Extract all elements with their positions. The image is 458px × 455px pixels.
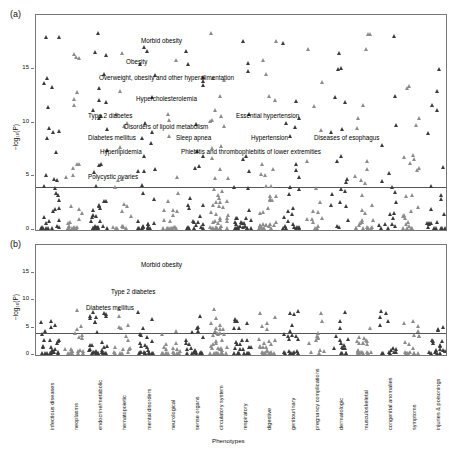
data-point <box>196 329 200 333</box>
data-point <box>81 349 85 353</box>
data-point <box>126 338 130 342</box>
data-point <box>57 129 61 133</box>
x-category-label: mental disorders <box>146 389 152 430</box>
data-point <box>146 348 150 352</box>
data-point <box>361 103 365 107</box>
data-point <box>394 347 398 351</box>
data-point <box>97 163 101 167</box>
data-point <box>357 351 361 355</box>
data-point <box>160 332 164 336</box>
data-point <box>439 197 443 201</box>
data-point <box>70 349 74 353</box>
data-point <box>249 218 253 222</box>
data-point <box>366 351 370 355</box>
data-point <box>225 199 229 203</box>
data-point <box>55 178 59 182</box>
data-point <box>394 200 398 204</box>
data-point <box>442 212 446 216</box>
data-point <box>177 351 181 355</box>
data-point <box>140 183 144 187</box>
point-annotation: Morbid obesity <box>141 261 182 268</box>
data-point <box>57 338 61 342</box>
data-point <box>88 343 92 347</box>
data-point <box>294 162 298 166</box>
manhattan-plot-panel-b: Morbid obesityType 2 diabetesDiabetes me… <box>35 244 447 356</box>
data-point <box>443 226 447 230</box>
data-point <box>191 219 195 223</box>
data-point <box>268 222 272 226</box>
data-point <box>411 153 415 157</box>
data-point <box>235 342 239 346</box>
data-point <box>237 326 241 330</box>
data-point <box>69 204 73 208</box>
data-point <box>409 209 413 213</box>
data-point <box>97 203 101 207</box>
data-point <box>366 32 370 36</box>
data-point <box>441 165 445 169</box>
data-point <box>96 31 100 35</box>
data-point <box>246 69 250 73</box>
data-point <box>316 335 320 339</box>
data-point <box>39 320 43 324</box>
data-point <box>430 338 434 342</box>
data-point <box>218 216 222 220</box>
data-point <box>185 351 189 355</box>
data-point <box>54 191 58 195</box>
data-point <box>288 185 292 189</box>
data-point <box>136 310 140 314</box>
y-tick-label: 10 <box>15 118 29 124</box>
data-point <box>209 210 213 214</box>
data-point <box>245 351 249 355</box>
data-point <box>355 126 359 130</box>
data-point <box>435 220 439 224</box>
data-point <box>269 342 273 346</box>
data-point <box>53 323 57 327</box>
data-point <box>150 317 154 321</box>
data-point <box>246 186 250 190</box>
y-tick-label: 15 <box>15 64 29 70</box>
data-point <box>417 166 421 170</box>
data-point <box>437 67 441 71</box>
data-point <box>141 191 145 195</box>
data-point <box>166 112 170 116</box>
data-point <box>309 350 313 354</box>
data-point <box>93 320 97 324</box>
data-point <box>199 225 203 229</box>
figure-root: (a) (b) −log₁₀(P) −log₁₀(P) Morbid obesi… <box>0 0 458 455</box>
data-point <box>258 211 262 215</box>
data-point <box>333 95 337 99</box>
data-point <box>143 343 147 347</box>
data-point <box>176 191 180 195</box>
data-point <box>201 203 205 207</box>
data-point <box>138 341 142 345</box>
data-point <box>338 319 342 323</box>
data-point <box>96 226 100 230</box>
data-point <box>120 209 124 213</box>
point-annotation: Sleep apnea <box>176 134 211 141</box>
data-point <box>74 226 78 230</box>
data-point <box>77 56 81 60</box>
data-point <box>162 218 166 222</box>
data-point <box>268 198 272 202</box>
x-category-label: neurological <box>170 400 176 430</box>
data-point <box>45 136 49 140</box>
y-tick-label: 15 <box>15 268 29 274</box>
data-point <box>45 351 49 355</box>
data-point <box>52 177 56 181</box>
data-point <box>240 221 244 225</box>
data-point <box>215 351 219 355</box>
data-point <box>75 90 79 94</box>
data-point <box>282 350 286 354</box>
data-point <box>104 53 108 57</box>
data-point <box>218 167 222 171</box>
data-point <box>238 347 242 351</box>
data-point <box>224 351 228 355</box>
data-point <box>320 319 324 323</box>
data-point <box>233 319 237 323</box>
data-point <box>184 49 188 53</box>
data-point <box>294 99 298 103</box>
data-point <box>141 225 145 229</box>
data-point <box>44 173 48 177</box>
data-point <box>411 319 415 323</box>
data-point <box>211 333 215 337</box>
